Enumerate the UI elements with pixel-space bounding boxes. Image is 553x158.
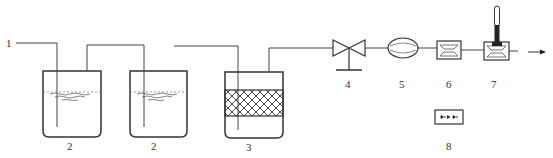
flow-meter-icon bbox=[388, 38, 418, 58]
arrow-right-icon bbox=[540, 50, 546, 55]
component-8: 8 bbox=[435, 110, 463, 152]
label-5: 5 bbox=[399, 78, 405, 90]
thermometer-tube bbox=[495, 6, 500, 26]
component-6: 6 bbox=[437, 41, 461, 90]
absorption-bottle-1: 2 bbox=[43, 71, 101, 152]
component-7: 7 bbox=[484, 6, 509, 90]
connector-pipe-1 bbox=[87, 45, 144, 127]
label-2a: 2 bbox=[67, 140, 73, 152]
label-6: 6 bbox=[446, 78, 452, 90]
filter-bottle: 3 bbox=[225, 72, 283, 153]
inlet-tube: 1 bbox=[6, 37, 57, 127]
process-diagram: 1 2 2 3 4 5 bbox=[0, 0, 553, 158]
flow-meter: 5 bbox=[388, 38, 418, 90]
label-3: 3 bbox=[246, 141, 252, 153]
liquid-ripples bbox=[50, 93, 90, 101]
liquid-ripples bbox=[137, 93, 177, 101]
bottle-body bbox=[43, 71, 101, 137]
absorption-bottle-2: 2 bbox=[130, 71, 187, 152]
connector-pipe-3 bbox=[269, 48, 333, 72]
label-8: 8 bbox=[446, 140, 452, 152]
label-2b: 2 bbox=[151, 140, 157, 152]
connector-pipe-2 bbox=[174, 46, 238, 130]
label-7: 7 bbox=[491, 78, 497, 90]
inlet-pipe bbox=[16, 43, 57, 127]
outlet-arrow bbox=[528, 50, 546, 55]
bottle-body bbox=[130, 71, 187, 137]
label-4: 4 bbox=[345, 78, 351, 90]
mesh-packing bbox=[225, 90, 283, 116]
label-1: 1 bbox=[6, 37, 12, 49]
thermometer-bulb bbox=[492, 42, 502, 46]
valve: 4 bbox=[333, 40, 365, 90]
